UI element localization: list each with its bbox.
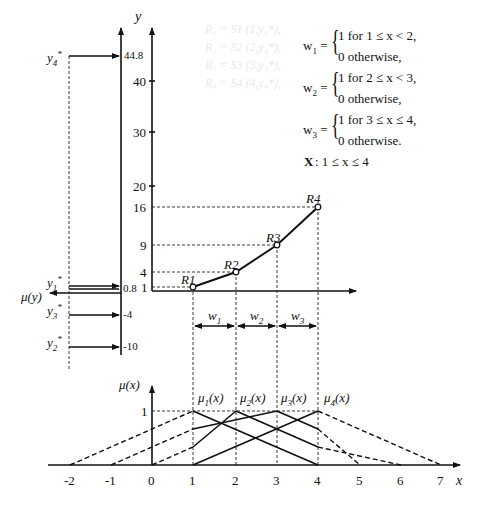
output-label-y1: y1* <box>47 275 62 293</box>
membership-functions-solid <box>193 411 318 465</box>
point-label-r4: R4 <box>306 192 320 205</box>
mu3-left <box>193 411 277 429</box>
y-axis-label: y <box>135 10 141 24</box>
width-label-w3: w3 <box>291 309 304 326</box>
point-label-r2: R2 <box>224 258 238 271</box>
y-tick-9: 9 <box>140 239 147 252</box>
y-tick-30: 30 <box>133 126 146 139</box>
membership-label-mu4: μ4(x) <box>324 391 349 408</box>
x-tick-minus-2: -2 <box>64 474 75 487</box>
width-label-w2: w2 <box>250 309 263 326</box>
y-tick-20: 20 <box>133 180 146 193</box>
x-tick-2: 2 <box>232 474 239 487</box>
x-tick-6: 6 <box>397 474 404 487</box>
point-label-r3: R3 <box>266 231 280 244</box>
x-tick-3: 3 <box>273 474 280 487</box>
x-tick-5: 5 <box>356 474 363 487</box>
y-tick-40: 40 <box>133 75 146 88</box>
output-value-minus-4: -4 <box>123 309 132 320</box>
r-curve <box>193 207 318 287</box>
output-label-y3: y3* <box>47 303 62 321</box>
membership-label-mu3: μ3(x) <box>281 391 306 408</box>
output-value-0-8: 0.8 <box>123 283 137 294</box>
upper-y-axis <box>149 28 155 291</box>
x-tick-7: 7 <box>437 474 444 487</box>
y-tick-4: 4 <box>140 266 147 279</box>
output-value-minus-10: -10 <box>123 341 138 352</box>
x-tick-minus-1: -1 <box>105 474 116 487</box>
mu-x-axis-label: μ(x) <box>119 378 140 391</box>
membership-label-mu2: μ2(x) <box>240 391 265 408</box>
y-tick-16: 16 <box>133 201 146 214</box>
mu2-left-a <box>193 411 236 447</box>
y-output-tick-44-8: 44.8 <box>124 50 143 61</box>
point-label-r1: R1 <box>181 273 195 286</box>
output-label-y4: y4* <box>47 50 62 68</box>
x-axis-label: x <box>456 474 462 488</box>
mu-tick-1: 1 <box>141 405 148 418</box>
r-points <box>190 204 321 290</box>
y-tick-1: 1 <box>141 281 148 294</box>
x-tick-4: 4 <box>314 474 321 487</box>
x-tick-1: 1 <box>189 474 196 487</box>
mu-y-label: μ(y) <box>21 290 42 303</box>
x-tick-0: 0 <box>148 474 155 487</box>
width-label-w1: w1 <box>208 309 221 326</box>
membership-label-mu1: μ1(x) <box>198 391 223 408</box>
output-label-y2: y2* <box>47 335 62 353</box>
